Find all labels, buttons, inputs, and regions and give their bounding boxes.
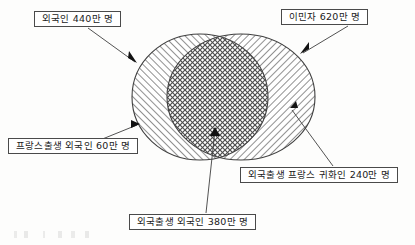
callout-foreign-born-foreigners: 외국출생 외국인 380만 명 — [129, 214, 256, 230]
callout-french-born-foreigners: 프랑스출생 외국인 60만 명 — [8, 138, 138, 154]
callout-immigrants: 이민자 620만 명 — [281, 9, 368, 25]
diagram-canvas: 외국인 440만 명 이민자 620만 명 프랑스출생 외국인 60만 명 외국… — [0, 0, 415, 245]
callout-foreigners: 외국인 440만 명 — [34, 11, 121, 27]
scan-artifact — [8, 231, 104, 238]
venn-diagram-graphic — [0, 0, 415, 245]
callout-foreign-born-naturalized: 외국출생 프랑스 귀화인 240만 명 — [240, 167, 398, 183]
